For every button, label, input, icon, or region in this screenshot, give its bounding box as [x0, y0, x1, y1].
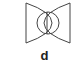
panel-label: d: [0, 48, 71, 63]
left-arc: [26, 3, 52, 43]
right-arc: [44, 3, 70, 43]
diagram-figure: [0, 0, 71, 48]
